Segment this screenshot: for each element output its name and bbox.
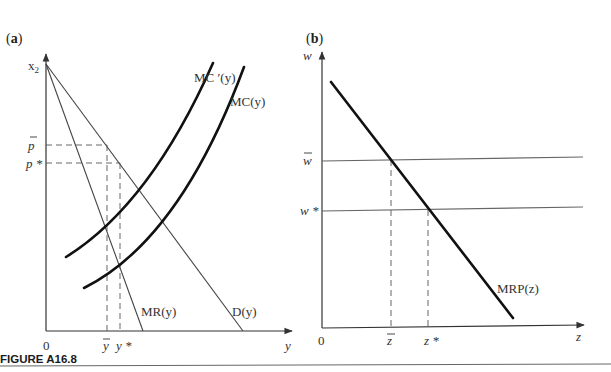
demand-label: D(y): [232, 304, 257, 319]
figure-caption-block: FIGURE A16.8: [0, 353, 611, 366]
w-star-label: w *: [300, 203, 319, 218]
panel-a-label: (a): [6, 31, 23, 47]
panel-a-y-axis-label: x2: [28, 58, 39, 75]
panel-b-origin: 0: [318, 333, 325, 348]
mc-prime-label: MC ′(y): [194, 70, 235, 85]
y-bar-label: y: [101, 338, 109, 353]
figure-caption: FIGURE A16.8: [0, 353, 78, 365]
mc-curve: [84, 67, 244, 288]
mc-label: MC(y): [230, 94, 265, 109]
panel-b-y-axis-label: w: [303, 48, 312, 63]
w-bar-label: w: [303, 153, 312, 168]
w-star-line: [322, 207, 583, 211]
mrp-curve: [331, 82, 513, 318]
z-bar-label: z: [386, 333, 392, 348]
p-bar-label: p: [27, 138, 35, 153]
demand-curve: [46, 64, 243, 331]
caption-rule: [0, 364, 611, 366]
panel-b-x-axis: [322, 325, 584, 328]
panel-a: (a) x2 y 0 p p * y y * MC ′(y) MC(y) MR(…: [6, 31, 292, 353]
panel-a-x-axis-label: y: [283, 338, 291, 353]
panel-b-label: (b): [306, 31, 323, 47]
panel-b: (b) w z 0 w w * z z * MRP(z): [300, 31, 584, 348]
mrp-label: MRP(z): [497, 281, 539, 296]
mr-label: MR(y): [141, 304, 176, 319]
y-star-label: y *: [114, 338, 132, 353]
w-bar-line: [322, 157, 583, 161]
p-star-label: p *: [25, 156, 43, 171]
z-star-label: z *: [423, 333, 439, 348]
figure-canvas: (a) x2 y 0 p p * y y * MC ′(y) MC(y) MR(…: [0, 0, 611, 372]
mc-prime-curve: [66, 63, 213, 257]
mr-curve: [46, 64, 143, 331]
panel-b-x-axis-label: z: [575, 329, 581, 344]
panel-a-origin: 0: [43, 338, 50, 353]
